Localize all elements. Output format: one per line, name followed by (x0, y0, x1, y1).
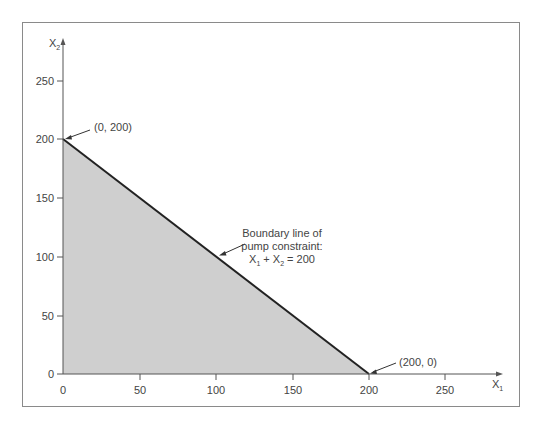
boundary-annotation: Boundary line of pump constraint: X1 + X… (241, 227, 322, 267)
x-tick-label: 100 (207, 384, 225, 396)
x-tick-label: 200 (360, 384, 378, 396)
y-tick-label: 50 (42, 310, 54, 322)
y-tick-label: 100 (36, 251, 54, 263)
y-tick-label: 150 (36, 192, 54, 204)
y-tick-label: 200 (36, 133, 54, 145)
point-label-top: (0, 200) (94, 121, 132, 133)
boundary-label-line2: pump constraint: (241, 240, 322, 252)
chart: 0 50 100 150 200 250 0 50 100 150 200 25… (0, 0, 540, 421)
boundary-label-line1: Boundary line of (242, 227, 322, 239)
x-tick-label: 250 (436, 384, 454, 396)
y-tick-label: 0 (48, 368, 54, 380)
x-tick-label: 150 (284, 384, 302, 396)
y-tick-label: 250 (36, 75, 54, 87)
x-tick-label: 0 (60, 384, 66, 396)
point-label-right: (200, 0) (399, 356, 437, 368)
x-tick-label: 50 (134, 384, 146, 396)
